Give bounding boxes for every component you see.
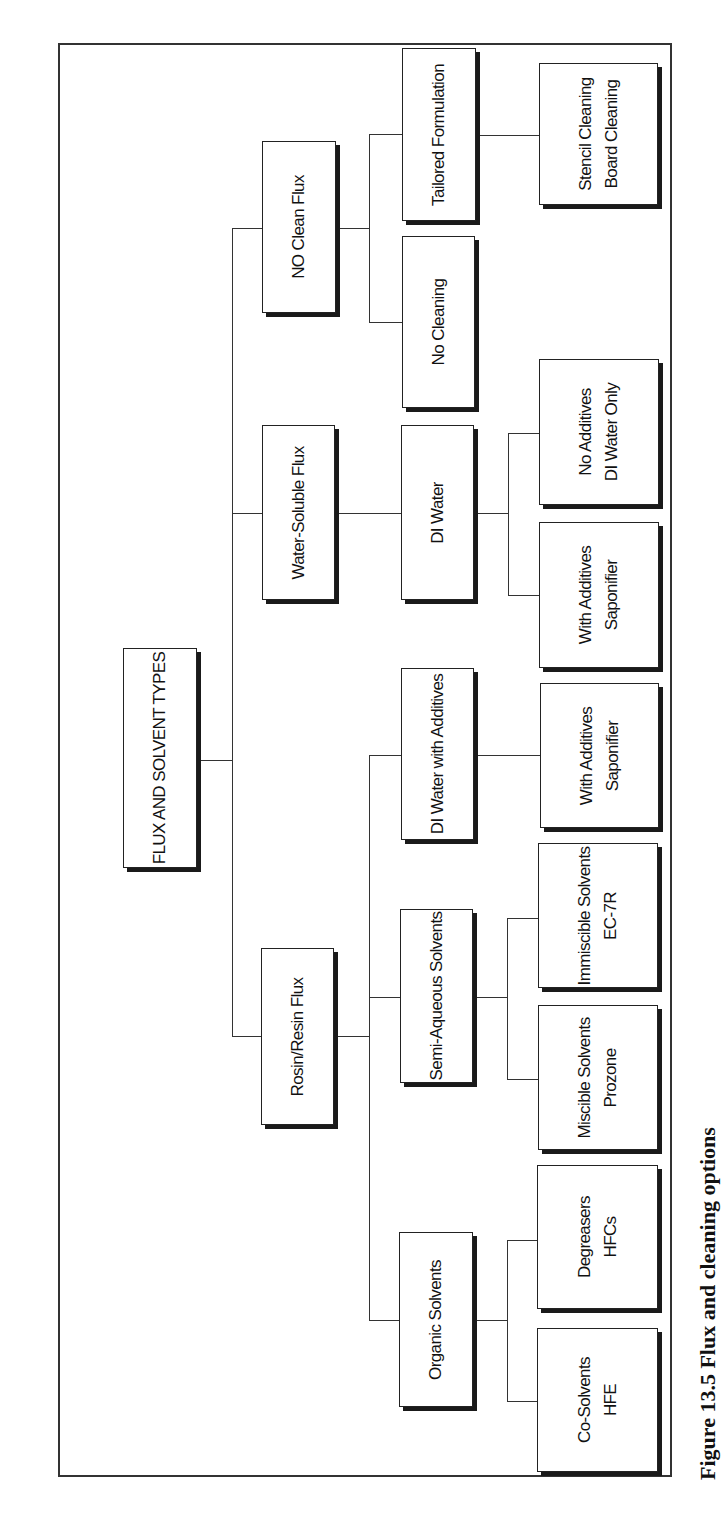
node-immiscible-solvents: Immiscible Solvents EC-7R bbox=[538, 843, 658, 988]
node-no-clean-flux: NO Clean Flux bbox=[262, 141, 336, 313]
node-label-line1: With Additives bbox=[573, 706, 599, 804]
node-label-line1: With Additives bbox=[573, 546, 599, 644]
node-label-line2: EC-7R bbox=[598, 846, 624, 985]
node-root: FLUX AND SOLVENT TYPES bbox=[123, 648, 197, 868]
node-label-line2: Saponifier bbox=[599, 546, 625, 644]
connector-water-soluble bbox=[232, 513, 262, 514]
connector-organic bbox=[369, 1320, 399, 1321]
node-label-line2: DI Water Only bbox=[599, 383, 625, 481]
node-label: NO Clean Flux bbox=[286, 175, 312, 279]
node-label-line2: HFCs bbox=[598, 1196, 624, 1278]
node-tailored-formulation: Tailored Formulation bbox=[402, 48, 476, 221]
node-di-water: DI Water bbox=[401, 425, 474, 600]
node-label: Rosin/Resin Flux bbox=[284, 977, 310, 1096]
node-stencil-board-cleaning: Stencil Cleaning Board Cleaning bbox=[539, 63, 658, 205]
figure-caption: Figure 13.5 Flux and cleaning options bbox=[695, 1127, 721, 1480]
connector-miscible bbox=[507, 1079, 538, 1080]
connector-with-additives-1 bbox=[508, 595, 539, 596]
connector-no-cleaning bbox=[369, 322, 402, 323]
node-label: DI Water bbox=[424, 482, 450, 544]
rosin-trunk bbox=[369, 755, 370, 1320]
node-with-additives-saponifier-1: With Additives Saponifier bbox=[539, 522, 659, 668]
node-label: No Cleaning bbox=[425, 279, 451, 366]
node-semi-aqueous-solvents: Semi-Aqueous Solvents bbox=[400, 909, 473, 1083]
no-clean-trunk bbox=[369, 134, 370, 322]
connector-immiscible bbox=[507, 918, 538, 919]
node-degreasers: Degreasers HFCs bbox=[537, 1165, 658, 1309]
node-label-line2: Saponifier bbox=[600, 706, 626, 804]
connector-semi-out bbox=[477, 997, 508, 998]
node-label-line1: Immiscible Solvents bbox=[572, 846, 598, 985]
connector-rosin bbox=[232, 1036, 262, 1037]
node-organic-solvents: Organic Solvents bbox=[399, 1232, 473, 1407]
node-label-line1: Stencil Cleaning bbox=[572, 77, 598, 190]
node-label-line1: Degreasers bbox=[571, 1196, 597, 1278]
di-water-trunk bbox=[508, 433, 509, 595]
node-co-solvents: Co-Solvents HFE bbox=[537, 1328, 658, 1472]
node-label-line1: No Additives bbox=[573, 383, 599, 481]
connector-no-clean bbox=[232, 228, 262, 229]
node-label-line2: Prozone bbox=[598, 1017, 624, 1138]
connector-co-solvents bbox=[507, 1401, 537, 1402]
node-with-additives-saponifier-2: With Additives Saponifier bbox=[540, 683, 659, 828]
connector-di-water bbox=[339, 513, 401, 514]
semi-aqueous-trunk bbox=[507, 918, 508, 1079]
node-label: Organic Solvents bbox=[423, 1260, 449, 1380]
connector-root bbox=[197, 760, 233, 761]
node-rosin-resin-flux: Rosin/Resin Flux bbox=[261, 948, 334, 1125]
node-label-line2: Board Cleaning bbox=[599, 77, 625, 190]
connector-di-water-out bbox=[478, 513, 509, 514]
node-label-line2: HFE bbox=[598, 1357, 624, 1443]
connector-di-water-additives bbox=[369, 755, 401, 756]
connector-tailored bbox=[369, 134, 402, 135]
main-trunk bbox=[232, 228, 233, 1036]
node-label: Semi-Aqueous Solvents bbox=[423, 912, 449, 1081]
connector-organic-out bbox=[477, 1320, 507, 1321]
connector-rosin-out bbox=[338, 1036, 370, 1037]
node-label: Tailored Formulation bbox=[426, 63, 452, 205]
connector-degreasers bbox=[507, 1240, 537, 1241]
node-no-cleaning: No Cleaning bbox=[402, 236, 475, 408]
node-label-line1: Miscible Solvents bbox=[572, 1017, 598, 1138]
node-label: Water-Soluble Flux bbox=[285, 446, 311, 579]
connector-semi-aqueous bbox=[369, 997, 400, 998]
node-no-additives: No Additives DI Water Only bbox=[539, 359, 659, 505]
connector-stencil bbox=[480, 135, 539, 136]
node-label: FLUX AND SOLVENT TYPES bbox=[147, 652, 173, 865]
node-label-line1: Co-Solvents bbox=[571, 1357, 597, 1443]
connector-no-additives bbox=[508, 433, 539, 434]
node-water-soluble-flux: Water-Soluble Flux bbox=[262, 425, 335, 600]
node-label: DI Water with Additives bbox=[424, 674, 450, 834]
organic-trunk bbox=[507, 1240, 508, 1401]
node-di-water-with-additives: DI Water with Additives bbox=[401, 668, 474, 840]
connector-no-clean-out bbox=[340, 228, 370, 229]
connector-saponifier-2 bbox=[478, 755, 540, 756]
node-miscible-solvents: Miscible Solvents Prozone bbox=[538, 1005, 658, 1150]
